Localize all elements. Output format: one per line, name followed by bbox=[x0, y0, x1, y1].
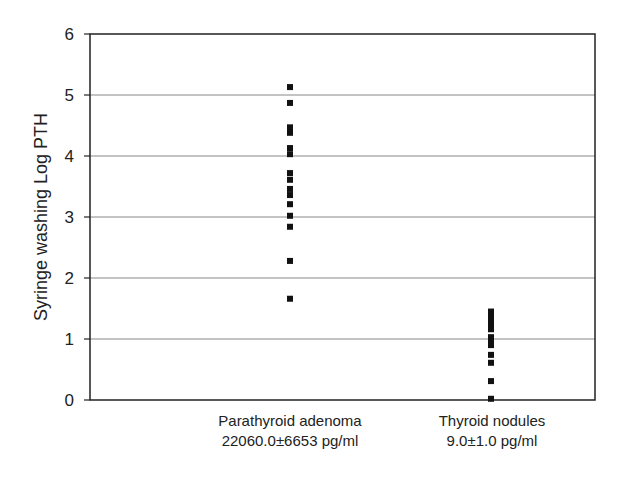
y-axis-label: Syringe washing Log PTH bbox=[31, 113, 51, 321]
y-tick-label: 2 bbox=[65, 269, 74, 288]
y-tick-label: 0 bbox=[65, 391, 74, 410]
category-stat: 22060.0±6653 pg/ml bbox=[190, 431, 390, 451]
category-name: Parathyroid adenoma bbox=[190, 411, 390, 431]
category-label-thyroid: Thyroid nodules 9.0±1.0 pg/ml bbox=[412, 411, 572, 451]
data-point-marker bbox=[488, 342, 494, 348]
y-tick-label: 5 bbox=[65, 86, 74, 105]
data-point-marker bbox=[287, 201, 293, 207]
data-point-marker bbox=[287, 170, 293, 176]
data-point-marker bbox=[287, 186, 293, 192]
data-point-marker bbox=[287, 296, 293, 302]
data-point-marker bbox=[287, 177, 293, 183]
y-tick-label: 3 bbox=[65, 208, 74, 227]
data-point-marker bbox=[287, 145, 293, 151]
scatter-chart: 0123456 Syringe washing Log PTH bbox=[0, 0, 628, 477]
data-point-marker bbox=[488, 326, 494, 332]
data-points bbox=[287, 84, 494, 402]
y-tick-label: 4 bbox=[65, 147, 74, 166]
data-point-marker bbox=[488, 352, 494, 358]
data-point-marker bbox=[488, 378, 494, 384]
category-name: Thyroid nodules bbox=[412, 411, 572, 431]
data-point-marker bbox=[287, 192, 293, 198]
data-point-marker bbox=[287, 84, 293, 90]
data-point-marker bbox=[287, 224, 293, 230]
data-point-marker bbox=[287, 100, 293, 106]
data-point-marker bbox=[488, 396, 494, 402]
data-point-marker bbox=[287, 213, 293, 219]
data-point-marker bbox=[287, 130, 293, 136]
data-point-marker bbox=[287, 151, 293, 157]
y-tick-label: 1 bbox=[65, 330, 74, 349]
gridlines bbox=[90, 95, 595, 339]
category-stat: 9.0±1.0 pg/ml bbox=[412, 431, 572, 451]
y-axis-ticks: 0123456 bbox=[65, 25, 90, 410]
data-point-marker bbox=[287, 258, 293, 264]
data-point-marker bbox=[488, 360, 494, 366]
category-label-parathyroid: Parathyroid adenoma 22060.0±6653 pg/ml bbox=[190, 411, 390, 451]
y-tick-label: 6 bbox=[65, 25, 74, 44]
data-point-marker bbox=[287, 124, 293, 130]
